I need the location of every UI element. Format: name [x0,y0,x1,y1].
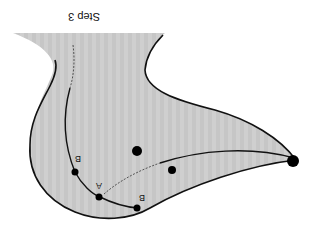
interior-dot-upper [132,146,142,156]
point-a-label: A [96,181,102,191]
point-b-lower [134,205,141,212]
point-b-lower-label: B [139,193,145,203]
interior-dot-right [168,166,176,174]
point-a [96,194,103,201]
point-b-upper-label: B [75,154,81,164]
point-b-upper [72,169,79,176]
step-title: Step 3 [68,11,100,23]
tip-dot [287,155,299,167]
step-diagram: B A B Step 3 [0,0,312,235]
